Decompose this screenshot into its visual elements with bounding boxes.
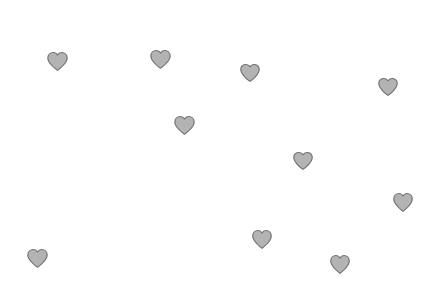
heart-path <box>28 249 47 267</box>
heart-path <box>294 152 312 169</box>
heart-icon <box>46 51 69 72</box>
heart-path <box>331 255 349 273</box>
heart-icon <box>149 49 172 70</box>
heart-path <box>151 50 170 68</box>
heart-path <box>175 116 194 134</box>
heart-icon <box>251 229 273 250</box>
heart-path <box>48 52 67 70</box>
heart-icon <box>329 254 351 275</box>
heart-icon <box>392 192 414 213</box>
heart-scatter-canvas <box>0 0 444 297</box>
heart-icon <box>239 63 261 83</box>
heart-path <box>379 78 397 95</box>
heart-icon <box>292 151 314 171</box>
heart-icon <box>26 248 49 269</box>
heart-path <box>394 193 412 211</box>
heart-icon <box>377 77 399 97</box>
heart-icon <box>173 115 196 136</box>
heart-path <box>253 230 271 248</box>
shape-layer <box>0 0 444 297</box>
heart-path <box>241 64 259 81</box>
